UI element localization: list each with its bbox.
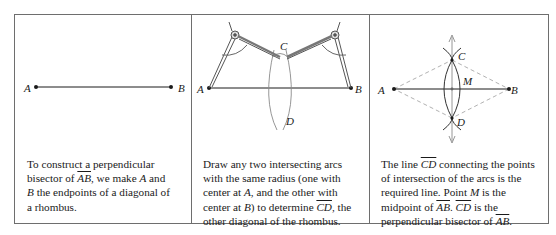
caption-step-2: Draw any two intersecting arcs with the …	[203, 157, 368, 228]
arc-from-b	[269, 50, 277, 130]
caption-step-3: The line CD connecting the points of int…	[381, 157, 549, 228]
panel-step-2: A B C D Draw any two intersecting arcs w…	[192, 15, 369, 223]
label-d: D	[285, 115, 294, 127]
label-c: C	[458, 50, 466, 62]
label-d: D	[456, 116, 465, 128]
label-b: B	[178, 82, 185, 94]
right-compass-icon	[287, 22, 351, 88]
label-c: C	[280, 40, 288, 52]
label-a: A	[23, 82, 31, 94]
label-a: A	[196, 83, 204, 95]
label-b: B	[355, 83, 362, 95]
point-m	[451, 88, 454, 91]
point-d	[450, 116, 453, 119]
panel-step-1: A B To construct a perpendicular bisecto…	[15, 15, 191, 223]
label-b: B	[511, 84, 518, 96]
panel-step-3: A B C D M The line CD connecting the poi…	[370, 15, 549, 223]
point-b	[169, 85, 173, 89]
caption-step-1: To construct a perpendicular bisector of…	[27, 157, 187, 214]
point-c	[450, 58, 453, 61]
label-m: M	[462, 75, 473, 87]
point-a	[34, 85, 38, 89]
label-a: A	[377, 84, 385, 96]
point-a	[392, 87, 396, 91]
